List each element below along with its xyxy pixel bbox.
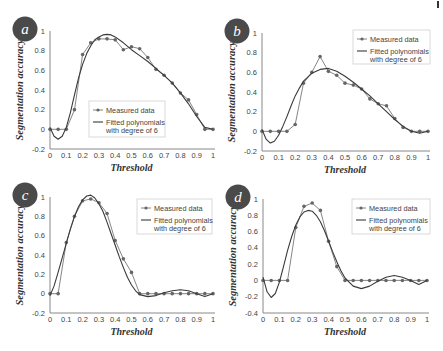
chart-panel-a: -0.200.20.40.60.8100.10.20.30.40.50.60.7… <box>13 17 216 174</box>
x-tick-label: 0.5 <box>340 315 350 324</box>
y-tick-label: 0 <box>254 276 258 285</box>
measured-point <box>293 123 297 127</box>
y-tick-label: -0.2 <box>245 292 258 301</box>
x-axis-title: Threshold <box>110 326 153 337</box>
measured-point <box>81 53 85 57</box>
x-tick-label: 0.3 <box>307 315 317 324</box>
legend-marker-icon <box>96 108 99 111</box>
y-tick-label: 0.8 <box>35 212 45 221</box>
y-axis-title: Segmentation accuracy <box>227 205 238 307</box>
measured-point <box>56 292 60 296</box>
y-tick-label: 0 <box>41 289 45 298</box>
x-tick-label: 0.3 <box>94 315 104 324</box>
panel-label: d <box>234 189 242 205</box>
measured-point <box>187 98 191 102</box>
measured-point <box>138 47 142 51</box>
corner-mark <box>437 1 439 8</box>
measured-point <box>318 55 322 59</box>
y-tick-label: 1 <box>254 195 258 204</box>
legend-entry-measured: Measured data <box>370 35 420 44</box>
measured-point <box>343 81 347 85</box>
x-tick-label: 0.7 <box>373 315 383 324</box>
measured-point <box>360 279 364 283</box>
y-tick-label: 1 <box>41 27 45 36</box>
x-tick-label: 0.2 <box>77 315 87 324</box>
measured-point <box>113 38 117 42</box>
x-axis-title: Threshold <box>110 162 153 173</box>
y-tick-label: 0.2 <box>248 260 258 269</box>
x-tick-label: 0.1 <box>274 315 284 324</box>
measured-point <box>122 257 126 261</box>
legend-entry-measured: Measured data <box>106 106 156 115</box>
x-tick-label: 0.4 <box>110 151 120 160</box>
x-tick-label: 0 <box>261 315 265 324</box>
x-tick-label: 0.4 <box>110 315 120 324</box>
measured-point <box>105 37 109 41</box>
measured-point <box>368 279 372 283</box>
measured-line <box>262 57 428 132</box>
legend-marker-icon <box>360 37 363 40</box>
x-tick-label: 0 <box>48 151 52 160</box>
legend-entry-measured: Measured data <box>154 204 204 213</box>
legend-entry-fitted-line2: with degree of 6 <box>368 224 421 233</box>
x-tick-label: 0.6 <box>356 315 366 324</box>
measured-point <box>310 201 314 205</box>
x-tick-label: 0.8 <box>389 315 399 324</box>
y-tick-label: 1 <box>41 193 45 202</box>
y-axis-title: Segmentation accuracy <box>14 39 25 141</box>
measured-point <box>146 292 150 296</box>
measured-point <box>269 130 273 134</box>
x-tick-label: 1 <box>211 151 215 160</box>
measured-point <box>286 279 290 283</box>
legend-marker-icon <box>144 206 147 209</box>
figure-canvas: -0.200.20.40.60.8100.10.20.30.40.50.60.7… <box>0 0 443 351</box>
measured-point <box>146 56 150 60</box>
x-tick-label: 0.8 <box>175 151 185 160</box>
panel-label: c <box>22 187 29 203</box>
x-tick-label: 0.9 <box>191 151 201 160</box>
x-tick-label: 0.6 <box>143 151 153 160</box>
legend-entry-fitted-line2: with degree of 6 <box>105 126 158 135</box>
x-tick-label: 0.6 <box>356 153 366 162</box>
x-tick-label: 0.2 <box>291 315 301 324</box>
y-tick-label: -0.2 <box>32 309 45 318</box>
panel-label: b <box>233 23 241 39</box>
y-tick-label: 0.2 <box>35 105 45 114</box>
y-tick-label: -0.2 <box>32 145 45 154</box>
x-tick-label: 0.1 <box>61 151 71 160</box>
y-tick-label: 0.4 <box>35 86 45 95</box>
legend-entry-fitted-line2: with degree of 6 <box>153 224 206 233</box>
legend-marker-icon <box>359 206 362 209</box>
measured-point <box>56 128 60 132</box>
x-tick-label: 0.5 <box>126 315 136 324</box>
x-tick-label: 0.9 <box>405 315 415 324</box>
chart-panel-c: -0.200.20.40.60.8100.10.20.30.40.50.60.7… <box>13 183 216 338</box>
measured-point <box>285 130 289 134</box>
x-axis-title: Threshold <box>324 164 367 175</box>
chart-panel-b: -0.200.20.40.60.8100.10.20.30.40.50.60.7… <box>225 19 431 176</box>
measured-point <box>385 104 389 108</box>
x-tick-label: 0 <box>48 315 52 324</box>
x-tick-label: 0.1 <box>61 315 71 324</box>
y-tick-label: 0.6 <box>248 227 258 236</box>
x-tick-label: 0.4 <box>323 153 333 162</box>
measured-point <box>130 271 134 275</box>
measured-point <box>319 209 323 213</box>
y-tick-label: 0.8 <box>248 211 258 220</box>
x-tick-label: 0 <box>260 153 264 162</box>
x-tick-label: 0.8 <box>175 315 185 324</box>
x-tick-label: 0.5 <box>126 151 136 160</box>
y-axis-title: Segmentation accuracy <box>14 204 25 306</box>
x-tick-label: 0.4 <box>323 315 333 324</box>
measured-point <box>89 197 93 201</box>
y-tick-label: 0.6 <box>35 66 45 75</box>
measured-point <box>73 108 77 112</box>
y-tick-label: 0 <box>253 127 257 136</box>
y-tick-label: 0 <box>41 125 45 134</box>
legend: Measured dataFitted polynomialswith degr… <box>353 30 430 64</box>
x-tick-label: 0.8 <box>390 153 400 162</box>
legend: Measured dataFitted polynomialswith degr… <box>89 101 165 137</box>
y-tick-label: -0.2 <box>244 147 257 156</box>
x-tick-label: 0.7 <box>159 315 169 324</box>
measured-point <box>170 292 174 296</box>
